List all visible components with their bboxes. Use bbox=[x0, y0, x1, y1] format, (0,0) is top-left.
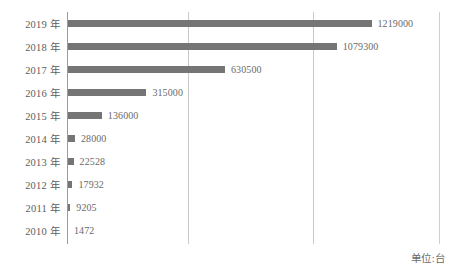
category-label: 2011 年 bbox=[0, 200, 60, 215]
bar-container: 22528 bbox=[68, 150, 105, 173]
bar-row: 2019 年1219000 bbox=[0, 12, 459, 35]
bar-container: 315000 bbox=[68, 81, 183, 104]
bar bbox=[68, 43, 337, 50]
bar-container: 1472 bbox=[68, 219, 94, 242]
bar-row: 2018 年1079300 bbox=[0, 35, 459, 58]
bar-container: 1219000 bbox=[68, 12, 413, 35]
bar-value-label: 9205 bbox=[76, 202, 96, 213]
bar bbox=[68, 112, 102, 119]
bar bbox=[68, 66, 225, 73]
category-label: 2013 年 bbox=[0, 154, 60, 169]
bar bbox=[68, 89, 146, 96]
category-label: 2012 年 bbox=[0, 177, 60, 192]
bar-container: 28000 bbox=[68, 127, 106, 150]
bar-row: 2012 年17932 bbox=[0, 173, 459, 196]
bar-container: 1079300 bbox=[68, 35, 378, 58]
bar-rows: 2019 年12190002018 年10793002017 年63050020… bbox=[0, 12, 459, 244]
category-label: 2017 年 bbox=[0, 62, 60, 77]
category-label: 2010 年 bbox=[0, 223, 60, 238]
bar-container: 17932 bbox=[68, 173, 104, 196]
bar-row: 2014 年28000 bbox=[0, 127, 459, 150]
bar-value-label: 136000 bbox=[108, 110, 139, 121]
bar-value-label: 28000 bbox=[81, 133, 107, 144]
bar-value-label: 1079300 bbox=[343, 41, 379, 52]
bar bbox=[68, 181, 72, 188]
bar-row: 2017 年630500 bbox=[0, 58, 459, 81]
category-label: 2019 年 bbox=[0, 16, 60, 31]
chart-page: 2019 年12190002018 年10793002017 年63050020… bbox=[0, 0, 459, 274]
bar-container: 136000 bbox=[68, 104, 138, 127]
bar-value-label: 22528 bbox=[80, 156, 106, 167]
bar-value-label: 1472 bbox=[74, 225, 94, 236]
bar bbox=[68, 20, 372, 27]
category-label: 2014 年 bbox=[0, 131, 60, 146]
bar-row: 2010 年1472 bbox=[0, 219, 459, 242]
bar-row: 2011 年9205 bbox=[0, 196, 459, 219]
bar-row: 2016 年315000 bbox=[0, 81, 459, 104]
bar-container: 9205 bbox=[68, 196, 97, 219]
bar bbox=[68, 135, 75, 142]
bar-row: 2015 年136000 bbox=[0, 104, 459, 127]
bar-row: 2013 年22528 bbox=[0, 150, 459, 173]
category-label: 2018 年 bbox=[0, 39, 60, 54]
category-label: 2016 年 bbox=[0, 85, 60, 100]
bar-value-label: 17932 bbox=[78, 179, 104, 190]
bar-value-label: 630500 bbox=[231, 64, 262, 75]
bar-value-label: 1219000 bbox=[378, 18, 414, 29]
unit-note: 单位:台 bbox=[411, 250, 445, 265]
category-label: 2015 年 bbox=[0, 108, 60, 123]
bar-container: 630500 bbox=[68, 58, 262, 81]
bar bbox=[68, 158, 74, 165]
bar-value-label: 315000 bbox=[152, 87, 183, 98]
bar bbox=[68, 204, 70, 211]
